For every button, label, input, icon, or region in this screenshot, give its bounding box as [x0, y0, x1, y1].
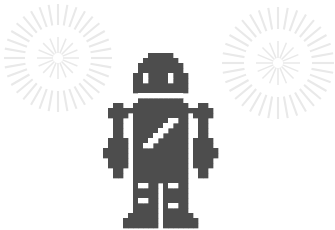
illustration-canvas	[0, 0, 335, 230]
pixel-robot	[0, 0, 335, 230]
robot-body-pixels	[103, 53, 218, 228]
